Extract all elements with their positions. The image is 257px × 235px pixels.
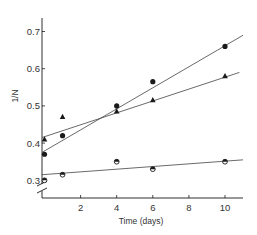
x-tick-label: 4 (114, 202, 119, 213)
fit-line (42, 160, 243, 175)
chart: 2468100.30.40.50.60.7 Time (days) 1/N (0, 0, 257, 235)
axes (37, 18, 243, 198)
y-tick-label: 0.3 (27, 175, 40, 186)
ticks: 2468100.30.40.50.60.7 (27, 26, 231, 213)
x-tick-label: 10 (220, 202, 231, 213)
y-tick-label: 0.4 (27, 138, 40, 149)
x-axis-title: Time (days) (119, 216, 164, 226)
half-circle-marker (114, 159, 119, 164)
y-axis-title: 1/N (10, 89, 20, 102)
x-tick-label: 8 (186, 202, 191, 213)
triangle-marker (222, 73, 228, 78)
fit-line (42, 35, 243, 152)
half-circle-marker (60, 172, 65, 177)
fit-line (42, 72, 239, 137)
filled-circle-marker (60, 133, 65, 138)
fit-lines (42, 35, 243, 175)
half-circle-marker (42, 178, 47, 183)
filled-circle-marker (42, 152, 47, 157)
half-circle-marker (223, 159, 228, 164)
x-tick-label: 6 (150, 202, 155, 213)
y-tick-label: 0.7 (27, 26, 40, 37)
filled-circle-marker (114, 103, 119, 108)
filled-circle-marker (222, 44, 227, 49)
triangle-marker (60, 114, 66, 119)
data-markers (42, 44, 228, 183)
y-tick-label: 0.6 (27, 63, 40, 74)
filled-circle-marker (150, 79, 155, 84)
x-tick-label: 2 (78, 202, 83, 213)
half-circle-marker (150, 167, 155, 172)
triangle-marker (150, 97, 156, 102)
y-tick-label: 0.5 (27, 100, 40, 111)
triangle-marker (114, 108, 120, 113)
